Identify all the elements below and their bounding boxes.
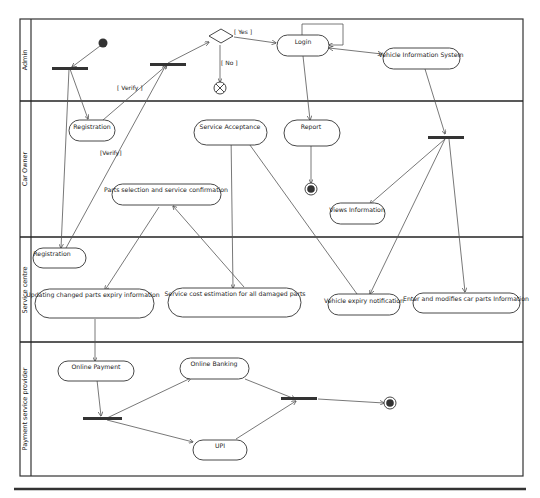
action-updating-parts-label: Updating changed parts expiry informatio…	[26, 291, 160, 299]
action-online-payment-label: Online Payment	[71, 363, 121, 371]
activity-final-payment-icon	[384, 397, 396, 409]
edge-online-payment-fork	[97, 380, 101, 416]
action-views-information: Views Information	[329, 203, 385, 224]
lane-label-service-centre: Service centre	[21, 267, 29, 314]
edge-fork-online-banking	[107, 378, 191, 418]
action-expiry-notification-label: Vehicle expiry notification	[324, 297, 404, 305]
action-cost-estimation-label: Service cost estimation for all damaged …	[164, 290, 305, 298]
edge-fork-registration-owner	[70, 69, 88, 119]
edge-login-report	[303, 56, 310, 120]
lane-label-admin: Admin	[21, 50, 29, 71]
decision-diamond	[209, 29, 233, 43]
fork-bar-payment	[83, 417, 122, 420]
action-online-payment: Online Payment	[58, 361, 134, 381]
action-service-acceptance: Service Acceptance	[194, 120, 267, 145]
action-registration-owner: Registration	[69, 120, 115, 141]
action-upi-label: UPI	[215, 442, 225, 449]
action-login: Login	[277, 35, 329, 56]
action-cost-estimation: Service cost estimation for all damaged …	[164, 288, 305, 317]
edge-join-final	[318, 399, 384, 403]
action-parts-selection: Parts selection and service confirmation	[104, 184, 228, 205]
guard-no: [ No ]	[221, 59, 238, 66]
action-service-acceptance-label: Service Acceptance	[200, 123, 261, 131]
edge-fork-views-info	[370, 139, 445, 204]
edge-estimation-parts-selection	[173, 206, 244, 287]
action-online-banking: Online Banking	[180, 358, 249, 379]
edge-initial-fork	[72, 46, 100, 67]
action-enter-modify-parts-label: Enter and modifies car parts Information	[403, 295, 529, 303]
action-registration-owner-label: Registration	[73, 123, 110, 131]
edge-banking-join	[245, 379, 295, 399]
edge-acceptance-estimation	[231, 134, 233, 288]
edge-decision-login-yes	[234, 37, 276, 43]
guard-verify-2: [Verify]	[100, 149, 122, 157]
guard-yes: [ Yes ]	[234, 28, 252, 35]
edge-login-vehicle-system	[329, 48, 382, 54]
action-online-banking-label: Online Banking	[190, 360, 237, 368]
action-report-label: Report	[301, 123, 322, 131]
action-registration-centre-label: Registration	[33, 250, 70, 258]
guard-verify-1: [ Verify ]	[117, 84, 143, 92]
action-views-information-label: Views Information	[329, 206, 385, 213]
edge-registration-verify	[103, 65, 167, 120]
action-updating-parts: Updating changed parts expiry informatio…	[26, 289, 160, 318]
fork-bar-owner	[428, 136, 464, 139]
edge-fork-decision	[168, 42, 209, 63]
join-bar-payment	[281, 397, 317, 400]
action-vehicle-information-system: Vehicle Information System	[379, 48, 464, 69]
diagram-frame	[20, 19, 523, 476]
fork-bar-admin-2	[150, 63, 186, 66]
edge-registration-centre-verify	[66, 65, 166, 248]
flow-final-icon	[214, 82, 226, 94]
action-report: Report	[284, 120, 340, 146]
edge-parts-selection-updating	[105, 207, 159, 290]
action-registration-centre: Registration	[33, 248, 86, 268]
edge-fork-enter-parts	[449, 139, 465, 292]
lane-label-payment-provider: Payment service provider	[21, 367, 29, 450]
activity-final-owner-icon	[305, 183, 317, 195]
activity-diagram: Admin Car Owner Service centre Payment s…	[0, 0, 540, 498]
lane-label-car-owner: Car Owner	[21, 151, 29, 186]
edge-fork-registration-centre	[61, 69, 69, 248]
action-login-label: Login	[295, 38, 312, 46]
action-upi: UPI	[193, 440, 247, 460]
action-vehicle-information-system-label: Vehicle Information System	[379, 51, 464, 59]
action-enter-modify-parts: Enter and modifies car parts Information	[403, 293, 529, 313]
fork-bar-admin-1	[52, 67, 88, 70]
action-expiry-notification: Vehicle expiry notification	[324, 294, 404, 315]
edge-upi-join	[236, 401, 296, 439]
initial-node	[99, 39, 108, 48]
action-parts-selection-label: Parts selection and service confirmation	[104, 186, 228, 193]
edge-fork-upi	[107, 420, 193, 442]
